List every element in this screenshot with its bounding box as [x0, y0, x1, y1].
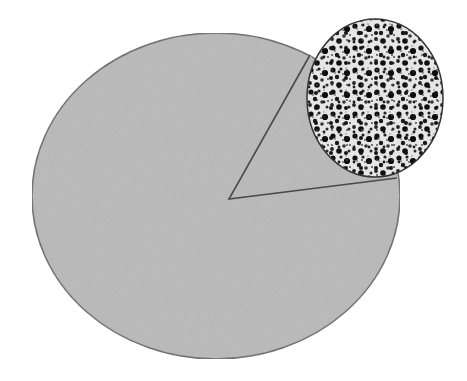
magnification-diagram	[0, 0, 467, 381]
diagram-canvas	[0, 0, 467, 381]
